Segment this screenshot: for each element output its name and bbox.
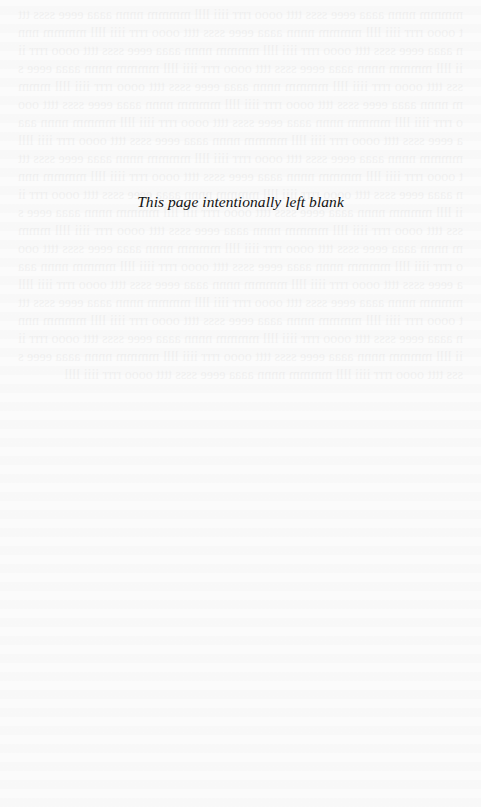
document-page: mmmm nnnn aaaa eeee ssss tttt oooo rrrr … — [0, 0, 481, 807]
blank-page-notice: This page intentionally left blank — [0, 193, 481, 211]
reverse-side-bleed-through: mmmm nnnn aaaa eeee ssss tttt oooo rrrr … — [18, 6, 463, 801]
